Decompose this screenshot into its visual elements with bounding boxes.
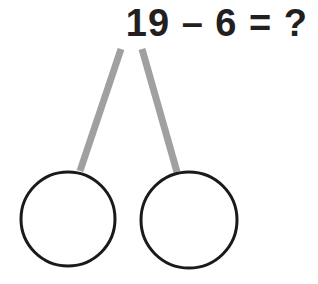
right-branch-line xyxy=(142,49,177,172)
left-branch-line xyxy=(80,49,121,171)
left-answer-circle[interactable] xyxy=(21,172,115,266)
number-bond-diagram xyxy=(0,0,318,284)
right-answer-circle[interactable] xyxy=(141,172,237,268)
number-bond-worksheet: 19 – 6 = ? xyxy=(0,0,318,284)
